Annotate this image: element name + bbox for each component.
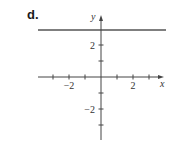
- y-axis-label: y: [90, 11, 96, 22]
- y-tick-label-2: 2: [90, 40, 95, 51]
- x-tick-label-neg2: −2: [64, 80, 75, 91]
- y-axis-arrow-icon: [99, 15, 103, 21]
- graph-plot: −2 2 2 −2 x y: [0, 0, 169, 143]
- x-tick-label-2: 2: [131, 80, 136, 91]
- y-tick-label-neg2: −2: [84, 104, 95, 115]
- x-axis-label: x: [159, 78, 165, 89]
